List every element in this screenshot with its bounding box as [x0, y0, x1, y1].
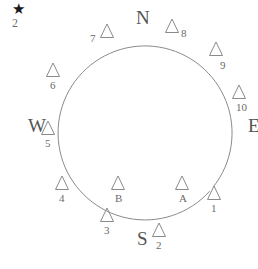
cardinal-label-n: N	[136, 8, 150, 27]
triangle-marker-label: 5	[45, 138, 51, 149]
triangle-marker-label: 9	[220, 60, 226, 71]
triangle-icon	[45, 62, 61, 78]
triangle-icon	[231, 84, 247, 100]
triangle-marker-label: 4	[59, 193, 65, 204]
triangle-icon	[151, 222, 167, 238]
star-icon: ★	[12, 2, 25, 17]
triangle-icon	[54, 175, 70, 191]
triangle-icon	[110, 175, 126, 191]
triangle-icon	[40, 120, 56, 136]
triangle-icon	[164, 18, 180, 34]
triangle-marker-label: 7	[90, 33, 96, 44]
star-marker-label: 2	[12, 17, 18, 29]
triangle-marker-label: B	[115, 193, 122, 204]
triangle-marker-label: 1	[211, 203, 217, 214]
triangle-marker-label: 6	[50, 80, 56, 91]
triangle-icon	[208, 41, 224, 57]
cardinal-label-e: E	[248, 116, 258, 135]
figure-canvas: ★ 2 NESW 12345678910AB	[0, 0, 258, 269]
triangle-icon	[99, 207, 115, 223]
cardinal-label-s: S	[137, 229, 148, 248]
triangle-marker-label: 2	[156, 240, 162, 251]
triangle-icon	[206, 185, 222, 201]
triangle-icon	[174, 175, 190, 191]
triangle-marker-label: 3	[104, 225, 110, 236]
triangle-icon	[99, 23, 115, 39]
triangle-marker-label: 8	[181, 28, 187, 39]
triangle-marker-label: A	[179, 193, 187, 204]
triangle-marker-label: 10	[236, 102, 247, 113]
